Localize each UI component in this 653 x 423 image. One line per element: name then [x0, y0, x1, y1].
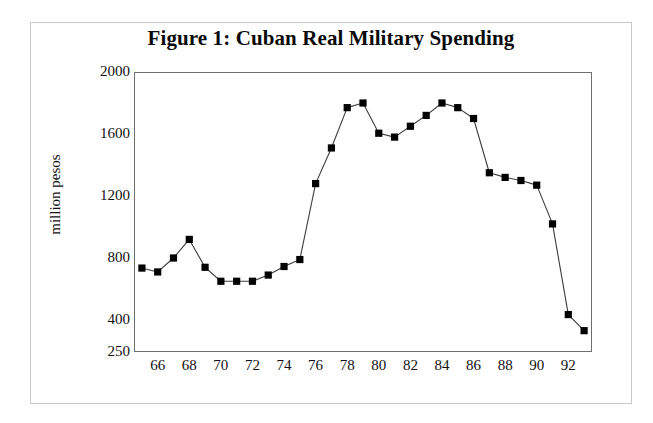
y-axis-tick-label: 1600	[100, 125, 130, 142]
x-axis-tick-labels: 6668707274767880828486889092	[0, 357, 653, 381]
y-axis-title: million pesos	[47, 135, 64, 255]
plot-area-frame	[134, 72, 592, 352]
y-axis-tick-label: 400	[108, 311, 131, 328]
y-axis-tick-label: 2000	[100, 63, 130, 80]
y-axis-tick-label: 800	[108, 249, 131, 266]
line-chart: million pesos 200016001200800400250 6668…	[0, 0, 653, 423]
x-axis-tick-label: 92	[548, 357, 588, 374]
y-axis-tick-label: 1200	[100, 187, 130, 204]
